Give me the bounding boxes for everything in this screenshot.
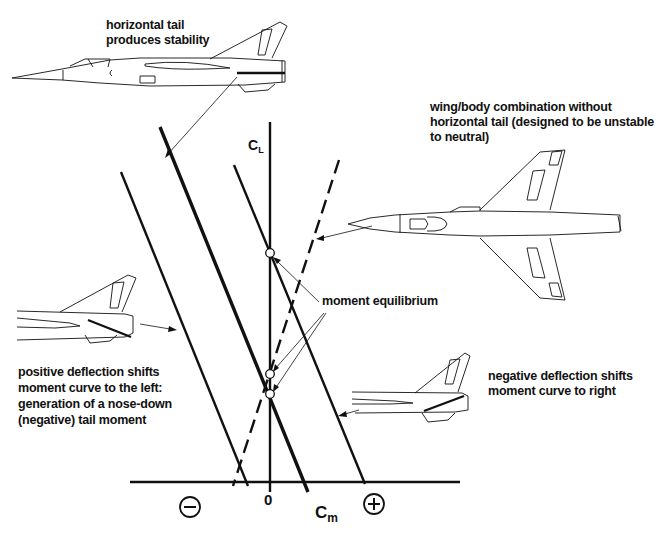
arrowhead-icon [273, 384, 279, 392]
plus-glyph [368, 498, 380, 510]
upper-wing [480, 150, 565, 210]
equilibrium-point [266, 370, 275, 379]
leader-line [168, 77, 237, 154]
cm-sub: m [327, 511, 338, 525]
origin-label: 0 [264, 491, 272, 508]
moment-curve-positive-deflection [121, 172, 248, 486]
horizontal-tail-negative-icon [424, 396, 464, 411]
cl-main: C [248, 137, 258, 153]
moment-curve-negative-deflection [234, 165, 365, 484]
aircraft-tail-negative-icon [352, 353, 470, 422]
cl-axis-label: CL [248, 137, 264, 155]
negative-deflection-label: negative deflection shifts moment curve … [488, 369, 633, 399]
moment-curve-with-tail [160, 127, 308, 492]
moment-equilibrium-label: moment equilibrium [322, 294, 438, 309]
arrowhead-icon [316, 235, 324, 241]
leader-line [140, 324, 170, 329]
cm-axis-label: Cm [315, 503, 338, 525]
arrowhead-icon [338, 411, 347, 417]
arrowhead-icon [168, 326, 177, 332]
horizontal-tail-positive-icon [88, 320, 131, 337]
lower-wing [480, 238, 565, 300]
horizontal-tail-label: horizontal tail produces stability [106, 18, 209, 48]
aircraft-top-view-icon [348, 150, 621, 300]
cl-sub: L [258, 145, 264, 155]
wing-body-label: wing/body combination without horizontal… [430, 100, 654, 145]
leader-line [322, 226, 372, 238]
cm-main: C [315, 503, 327, 522]
diagram-canvas [0, 0, 663, 534]
equilibrium-point [266, 390, 275, 399]
equilibrium-point [266, 249, 275, 258]
positive-deflection-label: positive deflection shifts moment curve … [18, 364, 172, 428]
